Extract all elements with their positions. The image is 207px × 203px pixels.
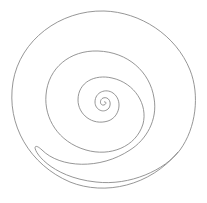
spiral-curve (12, 11, 196, 188)
spiral-diagram (0, 0, 207, 203)
spiral-drawing (0, 0, 207, 203)
